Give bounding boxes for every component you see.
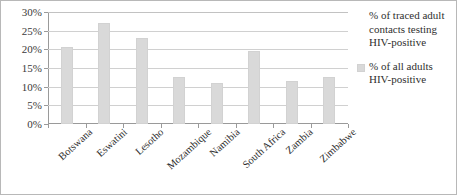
bar: [98, 23, 110, 124]
y-tick-label: 5%: [27, 100, 42, 111]
bar: [136, 38, 148, 124]
y-tick-label: 30%: [22, 7, 42, 18]
legend-entry: % of traced adult contacts testing HIV-p…: [357, 9, 455, 50]
bar-slot: [273, 12, 311, 124]
clipped-top-text: [1, 1, 457, 5]
bar-group: [48, 12, 348, 124]
x-axis-labels: BotswanaEswatiniLesothoMozambiqueNamibia…: [48, 124, 348, 192]
bar: [61, 47, 73, 124]
plot-area: 30%25%20%15%10%5%0%: [48, 12, 348, 124]
legend-swatch: [357, 64, 365, 72]
bar: [286, 81, 298, 124]
x-label-slot: Eswatini: [86, 124, 124, 192]
legend-entry: % of all adults HIV-positive: [357, 60, 455, 87]
bar-slot: [123, 12, 161, 124]
y-tick-label: 0%: [27, 119, 42, 130]
bar: [211, 83, 223, 124]
legend-label: % of all adults HIV-positive: [369, 60, 455, 87]
bar-slot: [48, 12, 86, 124]
x-label-slot: Zimbabwe: [311, 124, 349, 192]
y-tick-label: 10%: [22, 81, 42, 92]
x-label-slot: Namibia: [198, 124, 236, 192]
y-tick-label: 15%: [22, 63, 42, 74]
x-label-slot: Mozambique: [161, 124, 199, 192]
chart-legend: % of traced adult contacts testing HIV-p…: [357, 9, 455, 97]
x-tick-label: Zimbabwe: [318, 127, 358, 165]
bar: [173, 77, 185, 124]
x-label-slot: Botswana: [48, 124, 86, 192]
legend-label: % of traced adult contacts testing HIV-p…: [369, 9, 455, 50]
bar: [248, 51, 260, 124]
x-label-slot: Lesotho: [123, 124, 161, 192]
bar: [323, 77, 335, 124]
y-tick-label: 25%: [22, 25, 42, 36]
bar-slot: [198, 12, 236, 124]
x-label-slot: Zambia: [273, 124, 311, 192]
x-label-slot: South Africa: [236, 124, 274, 192]
bar-slot: [86, 12, 124, 124]
y-tick-label: 20%: [22, 44, 42, 55]
bar-slot: [311, 12, 349, 124]
legend-swatch: [357, 13, 365, 21]
bar-slot: [236, 12, 274, 124]
bar-slot: [161, 12, 199, 124]
chart-figure: 30%25%20%15%10%5%0% BotswanaEswatiniLeso…: [0, 0, 457, 195]
